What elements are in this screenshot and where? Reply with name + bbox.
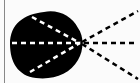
outer-ray-bottom	[82, 44, 138, 79]
outer-rays	[82, 11, 138, 79]
outer-ray-top	[82, 11, 138, 42]
black-blob-shape	[10, 11, 83, 78]
light-ray-diagram	[0, 0, 140, 83]
diagram-canvas	[0, 0, 140, 83]
